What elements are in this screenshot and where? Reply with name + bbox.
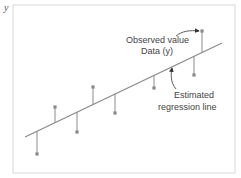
estimated-label: Estimated xyxy=(174,90,214,100)
regression-line-label: regression line xyxy=(158,102,217,112)
regression-diagram: y Observed value Data (y) Estimated regr… xyxy=(0,0,241,178)
y-axis-label: y xyxy=(3,2,9,13)
observed-data-label: Data (y) xyxy=(141,46,173,56)
observed-point xyxy=(53,105,56,108)
observed-point xyxy=(35,152,38,155)
observed-point xyxy=(91,85,94,88)
observed-point xyxy=(113,111,116,114)
observed-point xyxy=(192,73,195,76)
observed-point xyxy=(200,29,203,32)
observed-point xyxy=(75,130,78,133)
observed-value-label: Observed value xyxy=(126,35,189,45)
observed-point xyxy=(152,86,155,89)
regression-line-arrow xyxy=(171,68,176,89)
